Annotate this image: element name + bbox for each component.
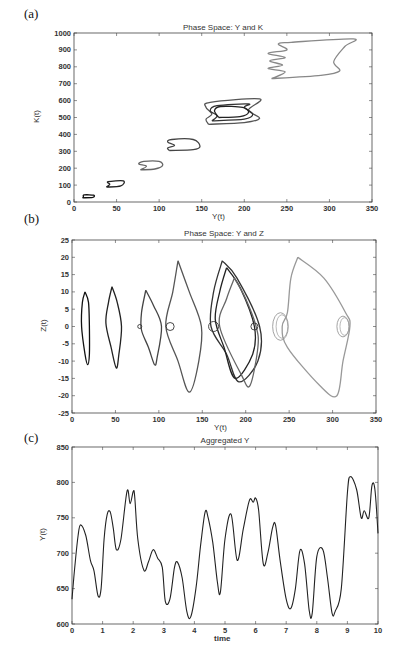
x-tick-label: 100: [153, 415, 166, 424]
figure-canvas: 0501001502002503003500100200300400500600…: [0, 0, 400, 660]
series-loop2: [106, 181, 124, 187]
y-tick-label: 700: [58, 79, 71, 88]
x-tick-label: 1: [101, 626, 105, 635]
x-tick-label: 3: [162, 626, 166, 635]
x-tick-label: 2: [131, 626, 135, 635]
y-tick-label: -20: [58, 391, 69, 400]
x-tick-label: 50: [112, 204, 120, 213]
y-tick-label: 20: [61, 253, 69, 262]
x-tick-label: 150: [195, 204, 208, 213]
series-loop1: [83, 195, 95, 198]
x-tick-label: 50: [111, 415, 119, 424]
series-Y: [72, 477, 378, 619]
y-tick-label: 1000: [54, 29, 71, 38]
series-ring1: [273, 313, 289, 341]
y-tick-label: 15: [61, 270, 69, 279]
series-orbit1: [81, 292, 89, 365]
series-orbit5b: [215, 268, 255, 379]
x-tick-label: 0: [72, 204, 76, 213]
series-orbit3: [141, 290, 162, 365]
y-tick-label: 900: [58, 45, 71, 54]
y-tick-label: 650: [56, 584, 69, 593]
x-tick-label: 300: [326, 415, 339, 424]
series-loop5c: [214, 106, 248, 117]
series-orbit2: [106, 287, 122, 368]
series-loop4: [167, 139, 200, 151]
x-tick-label: 200: [239, 415, 252, 424]
y-tick-label: 600: [58, 96, 71, 105]
y-tick-label: 300: [58, 147, 71, 156]
x-tick-label: 5: [223, 626, 227, 635]
x-tick-label: 7: [284, 626, 288, 635]
x-tick-label: 0: [70, 415, 74, 424]
x-tick-label: 150: [196, 415, 209, 424]
y-tick-label: 5: [65, 305, 69, 314]
x-tick-label: 350: [370, 415, 383, 424]
x-tick-label: 10: [374, 626, 382, 635]
x-tick-label: 9: [345, 626, 349, 635]
y-tick-label: -15: [58, 374, 69, 383]
y-tick-label: 600: [56, 620, 69, 629]
y-tick-label: 100: [58, 181, 71, 190]
series-loop6: [268, 39, 356, 79]
series-orbit4: [166, 261, 202, 392]
y-tick-label: 25: [61, 236, 69, 245]
x-tick-label: 300: [323, 204, 336, 213]
y-tick-label: 800: [58, 62, 71, 71]
chart-a: 0501001502002503003500100200300400500600…: [54, 29, 378, 214]
x-tick-label: 0: [70, 626, 74, 635]
chart-c: 012345678910600650700750800850: [56, 443, 382, 636]
x-tick-label: 350: [366, 204, 379, 213]
chart-b: 050100150200250300350-25-20-15-10-505101…: [58, 236, 382, 425]
y-tick-label: 700: [56, 549, 69, 558]
y-tick-label: -25: [58, 409, 69, 418]
y-tick-label: 200: [58, 164, 71, 173]
y-tick-label: 0: [65, 322, 69, 331]
series-loop3: [139, 161, 163, 170]
y-tick-label: 0: [67, 198, 71, 207]
y-tick-label: -10: [58, 357, 69, 366]
y-tick-label: 500: [58, 113, 71, 122]
x-tick-label: 4: [192, 626, 197, 635]
y-tick-label: 10: [61, 287, 69, 296]
plot-frame: [72, 240, 376, 413]
x-tick-label: 100: [153, 204, 166, 213]
x-tick-label: 250: [281, 204, 294, 213]
y-tick-label: -5: [62, 339, 69, 348]
y-tick-label: 750: [56, 513, 69, 522]
y-tick-label: 850: [56, 443, 69, 452]
x-tick-label: 250: [283, 415, 296, 424]
y-tick-label: 400: [58, 130, 71, 139]
x-tick-label: 8: [315, 626, 319, 635]
x-tick-label: 6: [254, 626, 258, 635]
x-tick-label: 200: [238, 204, 251, 213]
loop-ring: [166, 323, 174, 331]
y-tick-label: 800: [56, 478, 69, 487]
